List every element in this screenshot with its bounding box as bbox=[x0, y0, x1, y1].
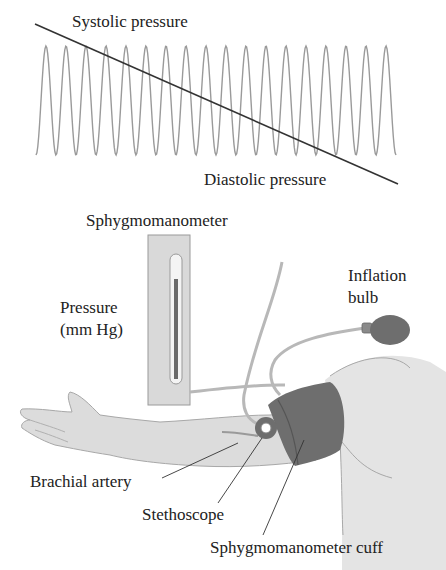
cuff-pressure-line bbox=[35, 24, 398, 184]
manometer-box bbox=[148, 235, 190, 405]
inflation-bulb bbox=[370, 315, 410, 345]
bulb-label-line2: bulb bbox=[348, 288, 378, 308]
manometer-hose bbox=[190, 385, 285, 392]
mercury-column bbox=[174, 279, 178, 379]
stethoscope-label: Stethoscope bbox=[142, 505, 224, 525]
diastolic-label: Diastolic pressure bbox=[204, 170, 326, 190]
pressure-waveform bbox=[36, 46, 396, 155]
pressure-label-line2: (mm Hg) bbox=[60, 320, 123, 340]
stethoscope-diaphragm bbox=[261, 423, 271, 433]
systolic-label: Systolic pressure bbox=[72, 12, 188, 32]
bulb-label-line1: Inflation bbox=[348, 266, 407, 286]
cuff-label: Sphygmomanometer cuff bbox=[210, 538, 383, 558]
manometer-label: Sphygmomanometer bbox=[86, 211, 228, 231]
pressure-label-line1: Pressure bbox=[60, 298, 118, 318]
artery-label: Brachial artery bbox=[30, 472, 131, 492]
